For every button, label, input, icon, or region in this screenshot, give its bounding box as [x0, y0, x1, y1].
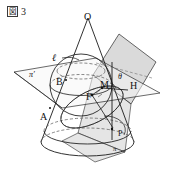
marker-A [49, 107, 51, 109]
figure-number: 3 [21, 7, 26, 17]
label-point-P: P [118, 130, 122, 138]
label-apex-O: O [84, 12, 91, 22]
label-plane-pi: π [113, 146, 117, 153]
marker-P [111, 128, 113, 130]
figure-box-char: 図 [7, 6, 18, 17]
figure-container: 図 3 Oℓπ′BMθHFAPπ [0, 0, 170, 178]
label-plane-pi-prime: π′ [29, 71, 35, 79]
label-angle-theta: θ [118, 73, 122, 81]
label-line-l: ℓ [52, 53, 56, 63]
figure-caption: 図 3 [7, 6, 26, 17]
marker-B [65, 79, 67, 81]
geometry-diagram [0, 0, 170, 178]
label-point-H: H [130, 81, 137, 91]
label-point-A: A [40, 112, 47, 122]
label-point-M: M [100, 80, 109, 90]
label-point-F: F [86, 92, 92, 102]
label-point-B: B [56, 77, 63, 87]
